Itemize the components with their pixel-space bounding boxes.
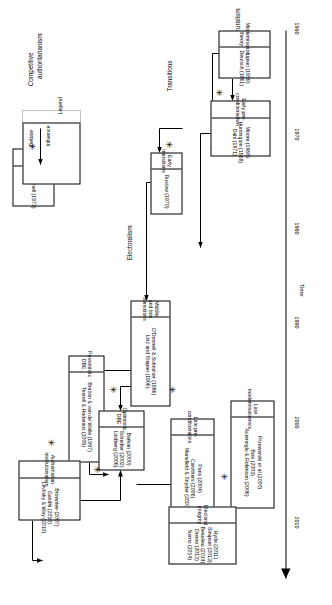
legend-title: Legend [56, 97, 62, 114]
legend-debate-label: Debate [27, 129, 33, 146]
rotated-diagram: Time 1960 1970 1980 1990 2000 2010 Struc… [0, 0, 332, 605]
legend-influence-label: Influence [44, 125, 50, 146]
figure-canvas: Time 1960 1970 1980 1990 2000 2010 Struc… [0, 0, 332, 605]
legend-influence-arrow [0, 0, 332, 605]
